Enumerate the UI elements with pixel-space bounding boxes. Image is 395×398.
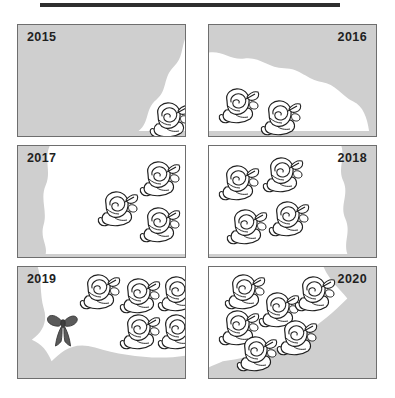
panel-grid: 201520162017201820192020	[17, 24, 377, 379]
figure-canvas: 201520162017201820192020	[0, 0, 395, 398]
year-label-2019: 2019	[27, 273, 56, 286]
year-label-2020: 2020	[338, 273, 367, 286]
growth-shape	[209, 267, 347, 367]
year-label-2018: 2018	[338, 152, 367, 165]
ribbon-bow-icon	[46, 309, 80, 349]
growth-shape	[43, 146, 185, 254]
panel-2019: 2019	[17, 266, 186, 379]
panel-2020: 2020	[208, 266, 377, 379]
year-label-2015: 2015	[27, 31, 56, 44]
growth-shape	[139, 29, 185, 131]
panel-2015: 2015	[17, 24, 186, 137]
panel-2018: 2018	[208, 145, 377, 258]
growth-shape	[209, 146, 348, 254]
year-label-2017: 2017	[27, 152, 56, 165]
year-label-2016: 2016	[338, 31, 367, 44]
title-rule	[40, 3, 340, 7]
growth-shape	[209, 52, 369, 131]
panel-2016: 2016	[208, 24, 377, 137]
panel-2017: 2017	[17, 145, 186, 258]
